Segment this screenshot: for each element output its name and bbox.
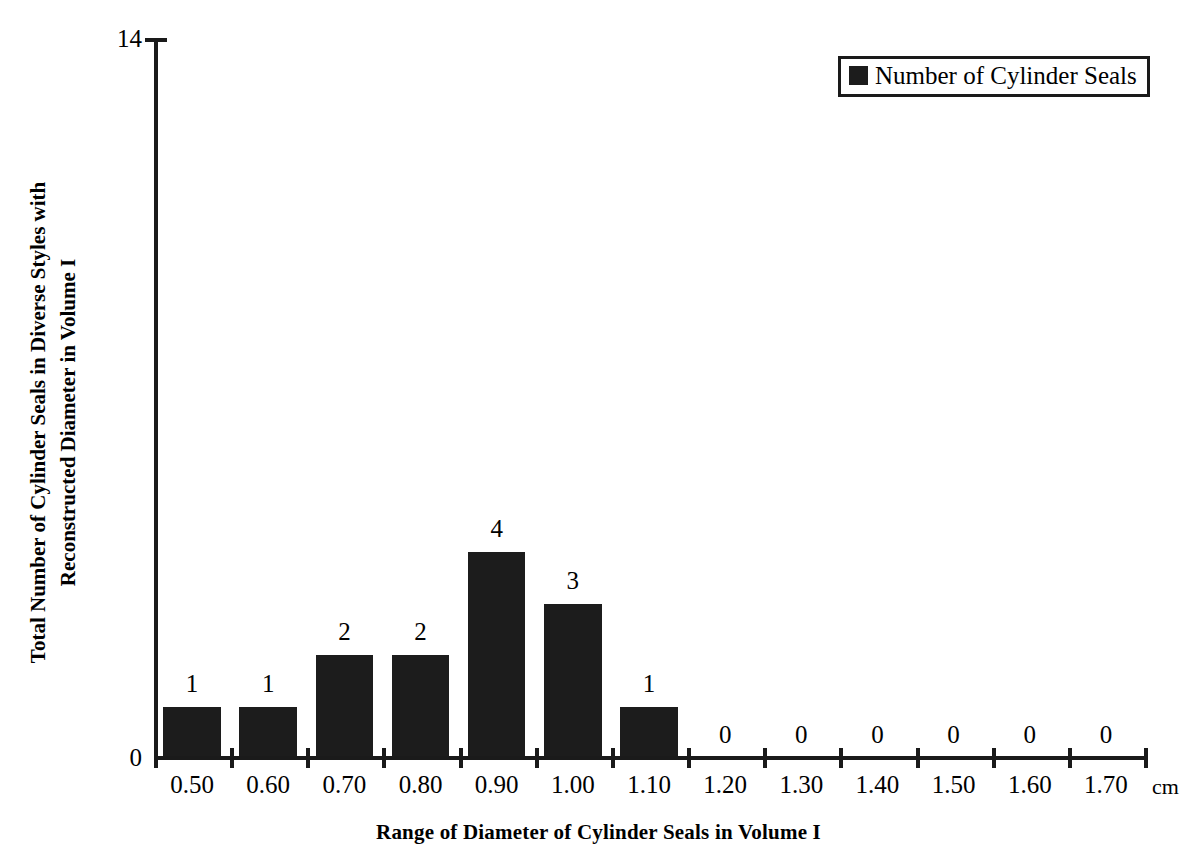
x-axis-tick xyxy=(382,748,386,768)
y-axis-title-line-2: Reconstructed Diameter in Volume I xyxy=(53,72,83,772)
x-axis-tick xyxy=(306,748,310,768)
legend-label: Number of Cylinder Seals xyxy=(875,63,1137,88)
bar-value-label: 0 xyxy=(771,722,831,747)
bar xyxy=(239,707,296,758)
bar-value-label: 0 xyxy=(695,722,755,747)
bar-value-label: 2 xyxy=(391,619,451,644)
x-axis-unit-label: cm xyxy=(1152,776,1179,798)
x-axis-tick xyxy=(1068,748,1072,768)
x-axis-tick xyxy=(611,748,615,768)
bar xyxy=(316,655,373,758)
x-axis-tick-label: 1.70 xyxy=(1061,772,1151,797)
bar xyxy=(620,707,677,758)
x-axis-tick-end xyxy=(1144,748,1148,768)
bar-value-label: 1 xyxy=(619,671,679,696)
x-axis-tick xyxy=(230,748,234,768)
y-axis-tick-label-max: 14 xyxy=(117,26,142,51)
x-axis-tick xyxy=(154,748,158,768)
bar-value-label: 2 xyxy=(314,619,374,644)
bar-value-label: 0 xyxy=(1000,722,1060,747)
bar-value-label: 0 xyxy=(847,722,907,747)
bar-value-label: 3 xyxy=(543,568,603,593)
bar-value-label: 0 xyxy=(1076,722,1136,747)
y-axis-title: Total Number of Cylinder Seals in Divers… xyxy=(23,72,84,772)
x-axis-title: Range of Diameter of Cylinder Seals in V… xyxy=(0,820,1197,845)
bar xyxy=(392,655,449,758)
bar-value-label: 0 xyxy=(924,722,984,747)
bar xyxy=(544,604,601,758)
x-axis-tick xyxy=(916,748,920,768)
y-axis-tick-label-min: 0 xyxy=(130,745,143,770)
bar xyxy=(163,707,220,758)
bar-chart: 14 0 Total Number of Cylinder Seals in D… xyxy=(0,0,1197,862)
x-axis-tick xyxy=(839,748,843,768)
bar xyxy=(468,552,525,758)
x-axis-tick xyxy=(763,748,767,768)
x-axis-tick xyxy=(459,748,463,768)
bar-value-label: 1 xyxy=(238,671,298,696)
y-axis-title-line-1: Total Number of Cylinder Seals in Divers… xyxy=(23,72,53,772)
x-axis-tick xyxy=(535,748,539,768)
bar-value-label: 1 xyxy=(162,671,222,696)
plot-area xyxy=(156,38,1144,758)
x-axis-tick xyxy=(687,748,691,768)
x-axis-tick xyxy=(992,748,996,768)
legend: Number of Cylinder Seals xyxy=(838,56,1150,97)
bar-value-label: 4 xyxy=(467,516,527,541)
legend-swatch-icon xyxy=(849,66,868,85)
